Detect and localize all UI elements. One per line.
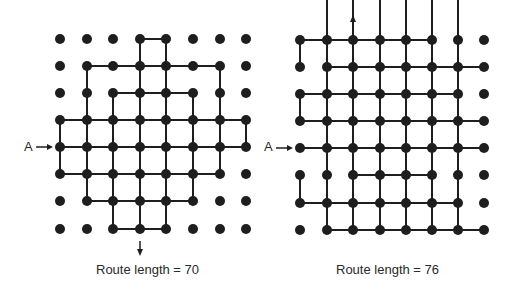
grid-node	[295, 35, 305, 45]
grid-node	[479, 89, 489, 99]
exit-arrow-icon	[350, 15, 356, 28]
grid-node	[161, 196, 171, 206]
grid-node	[108, 224, 118, 234]
grid-node	[188, 61, 198, 71]
grid-node	[401, 198, 411, 208]
grid-node	[427, 198, 437, 208]
grid-node	[427, 225, 437, 235]
grid-node	[188, 224, 198, 234]
grid-node	[241, 88, 251, 98]
grid-node	[479, 35, 489, 45]
grid-node	[135, 142, 145, 152]
grid-node	[161, 88, 171, 98]
grid-node	[215, 34, 225, 44]
grid-node	[479, 62, 489, 72]
grid-node	[401, 225, 411, 235]
grid-node	[241, 61, 251, 71]
grid-node	[348, 225, 358, 235]
grid-node	[55, 115, 65, 125]
grid-node	[135, 196, 145, 206]
grid-node	[295, 170, 305, 180]
grid-node	[322, 62, 332, 72]
grid-node	[401, 89, 411, 99]
grid-node	[55, 88, 65, 98]
grid-node	[401, 143, 411, 153]
grid-node	[375, 143, 385, 153]
grid-node	[348, 116, 358, 126]
grid-node	[348, 62, 358, 72]
grid-node	[108, 115, 118, 125]
grid-node	[135, 61, 145, 71]
grid-node	[241, 142, 251, 152]
grid-node	[161, 34, 171, 44]
grid-node	[427, 116, 437, 126]
grid-node	[375, 35, 385, 45]
grid-node	[427, 62, 437, 72]
grid-node	[479, 198, 489, 208]
grid-node	[55, 61, 65, 71]
grid-node	[215, 115, 225, 125]
grid-node	[82, 61, 92, 71]
grid-node	[401, 116, 411, 126]
grid-node	[82, 196, 92, 206]
grid-node	[188, 169, 198, 179]
grid-node	[108, 61, 118, 71]
grid-node	[453, 143, 463, 153]
grid-node	[453, 116, 463, 126]
route-edges	[300, 0, 484, 230]
grid-node	[348, 198, 358, 208]
grid-node	[427, 143, 437, 153]
grid-node	[401, 170, 411, 180]
diagram-stage: A Route length = 70 A Route length = 76	[0, 0, 513, 291]
grid-node	[108, 34, 118, 44]
grid-node	[453, 89, 463, 99]
caption-left-route-length: Route length = 70	[96, 262, 199, 277]
grid-node	[215, 224, 225, 234]
grid-node	[375, 225, 385, 235]
grid-node	[322, 225, 332, 235]
entry-arrow-icon	[36, 144, 53, 150]
grid-node	[453, 225, 463, 235]
grid-node	[55, 142, 65, 152]
grid-node	[453, 62, 463, 72]
grid-node	[188, 34, 198, 44]
entry-arrow-icon	[276, 145, 293, 151]
grid-node	[348, 143, 358, 153]
grid-node	[108, 142, 118, 152]
grid-node	[401, 35, 411, 45]
grid-node	[322, 89, 332, 99]
grid-node	[82, 224, 92, 234]
grid-node	[161, 142, 171, 152]
grid-node	[82, 34, 92, 44]
grid-node	[375, 116, 385, 126]
grid-node	[161, 115, 171, 125]
grid-node	[375, 198, 385, 208]
grid-node	[82, 115, 92, 125]
grid-node	[241, 224, 251, 234]
grid-node	[55, 224, 65, 234]
grid-node	[135, 224, 145, 234]
grid-dots	[55, 34, 251, 234]
entry-label-right: A	[264, 139, 273, 154]
grid-node	[55, 169, 65, 179]
grid-node	[108, 196, 118, 206]
grid-node	[295, 225, 305, 235]
grid-node	[135, 115, 145, 125]
grid-dots	[295, 35, 489, 235]
grid-node	[375, 62, 385, 72]
grid-node	[135, 88, 145, 98]
grid-node	[188, 115, 198, 125]
grid-node	[161, 224, 171, 234]
grid-node	[241, 196, 251, 206]
grid-node	[322, 35, 332, 45]
grid-node	[188, 88, 198, 98]
grid-node	[375, 89, 385, 99]
grid-node	[135, 34, 145, 44]
grid-node	[295, 62, 305, 72]
grid-node	[108, 88, 118, 98]
caption-right-route-length: Route length = 76	[336, 262, 439, 277]
exit-arrow-icon	[137, 241, 143, 256]
grid-node	[348, 170, 358, 180]
grid-node	[295, 116, 305, 126]
grid-node	[479, 170, 489, 180]
